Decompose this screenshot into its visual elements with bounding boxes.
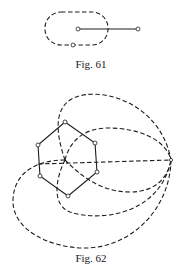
hexagon-vertex-6 [36,143,40,147]
node-inner [76,27,80,31]
hexagon-vertex-3 [95,170,99,174]
dashed-curve-bottom-middle [57,160,171,216]
hexagon-vertex-2 [93,141,97,145]
far-point [169,158,172,161]
figure-62-diagram [0,78,182,268]
node-on-loop [71,43,75,47]
dashed-curve-bottom-inner [65,160,171,192]
figure-62: Fig. 62 [0,78,182,268]
hexagon-vertex-4 [66,194,70,198]
figure-61-caption: Fig. 61 [0,58,182,70]
hexagon [38,122,97,196]
hexagon-vertex-5 [38,174,42,178]
dashed-curve-top-outer [58,94,171,160]
node-outer [136,27,140,31]
figure-61: Fig. 61 [0,0,182,78]
dashed-curve-bottom-outer [13,160,171,248]
figure-62-caption: Fig. 62 [0,252,182,264]
hexagon-vertex-1 [63,120,67,124]
